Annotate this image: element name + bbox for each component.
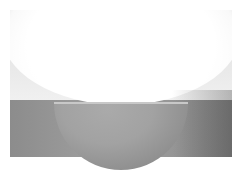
sconce-dome bbox=[54, 103, 188, 170]
sconce-rim bbox=[54, 102, 188, 104]
product-image-canvas bbox=[0, 0, 242, 178]
